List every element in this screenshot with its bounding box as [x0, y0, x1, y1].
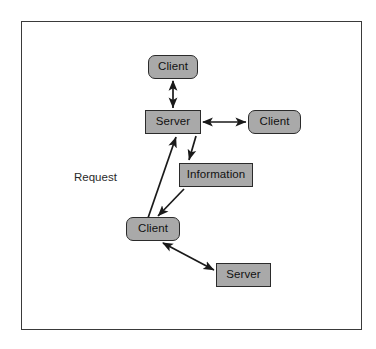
request-label: Request [74, 171, 117, 183]
node-client-right[interactable]: Client [248, 110, 301, 134]
node-label: Information [187, 169, 246, 181]
diagram-canvas: Client Server Client Information Client … [0, 0, 376, 349]
edge-client-bottom-server [148, 137, 176, 218]
node-server-main[interactable]: Server [145, 110, 201, 134]
node-label: Server [226, 269, 260, 281]
node-server-bottom[interactable]: Server [216, 263, 271, 287]
node-label: Server [156, 116, 190, 128]
edge-information-client-bottom [158, 189, 184, 216]
edge-client-bottom-server-bottom [163, 243, 214, 270]
node-label: Client [259, 116, 289, 128]
node-client-bottom[interactable]: Client [126, 217, 180, 241]
node-information[interactable]: Information [179, 163, 253, 187]
node-label: Client [158, 61, 188, 73]
node-client-top[interactable]: Client [148, 55, 198, 79]
edge-server-information [189, 136, 196, 160]
node-label: Client [138, 223, 168, 235]
